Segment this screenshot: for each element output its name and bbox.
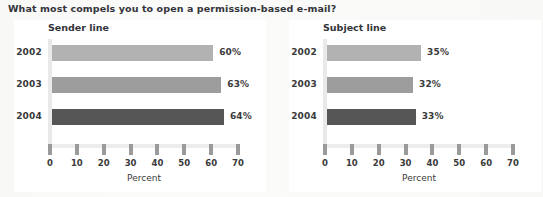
- bar-row: 2004 64%: [14, 109, 266, 125]
- axis-tick-label: 0: [38, 158, 62, 168]
- bar-value-subject-2004: 33%: [422, 111, 444, 121]
- bar-subject-2004: [327, 109, 416, 125]
- axis-tick: [75, 144, 79, 155]
- axis-tick: [129, 144, 133, 155]
- bar-row: 2002 60%: [14, 45, 266, 61]
- axis-tick: [182, 144, 186, 155]
- bar-sender-2004: [52, 109, 224, 125]
- axis-tick: [484, 144, 488, 155]
- panel-title-subject: Subject line: [323, 22, 386, 33]
- bar-subject-2002: [327, 45, 421, 61]
- axis-tick-label: 10: [65, 158, 89, 168]
- bar-row: 2004 33%: [289, 109, 541, 125]
- axis-title-subject: Percent: [323, 173, 515, 183]
- axis-tick-label: 70: [501, 158, 525, 168]
- x-axis-sender: 010203040506070 Percent: [14, 144, 266, 192]
- bar-subject-2003: [327, 77, 413, 93]
- category-label: 2002: [289, 47, 317, 57]
- bar-sender-2002: [52, 45, 213, 61]
- axis-tick-label: 60: [474, 158, 498, 168]
- axis-tick: [236, 144, 240, 155]
- axis-tick: [377, 144, 381, 155]
- axis-tick-label: 20: [92, 158, 116, 168]
- axis-tick: [102, 144, 106, 155]
- bar-sender-2003: [52, 77, 221, 93]
- chart-panel-sender: Sender line 2002 60% 2003 63% 2004 64% 0…: [14, 20, 266, 192]
- category-label: 2003: [289, 79, 317, 89]
- bar-value-sender-2002: 60%: [219, 47, 241, 57]
- axis-tick-label: 30: [119, 158, 143, 168]
- axis-tick-label: 30: [394, 158, 418, 168]
- bar-row: 2003 63%: [14, 77, 266, 93]
- category-label: 2002: [14, 47, 42, 57]
- axis-tick-label: 20: [367, 158, 391, 168]
- category-label: 2004: [289, 111, 317, 121]
- axis-title-sender: Percent: [48, 173, 240, 183]
- plot-area-sender: 2002 60% 2003 63% 2004 64%: [14, 39, 266, 144]
- axis-tick: [155, 144, 159, 155]
- panel-title-sender: Sender line: [48, 22, 109, 33]
- axis-tick: [48, 144, 52, 155]
- axis-tick-label: 70: [226, 158, 250, 168]
- axis-tick: [511, 144, 515, 155]
- figure-title: What most compels you to open a permissi…: [8, 3, 336, 14]
- bar-value-sender-2003: 63%: [227, 79, 249, 89]
- bar-row: 2003 32%: [289, 77, 541, 93]
- axis-tick: [404, 144, 408, 155]
- axis-tick: [430, 144, 434, 155]
- chart-panel-subject: Subject line 2002 35% 2003 32% 2004 33% …: [289, 20, 541, 192]
- figure-canvas: What most compels you to open a permissi…: [0, 0, 543, 197]
- axis-tick-label: 50: [447, 158, 471, 168]
- category-label: 2003: [14, 79, 42, 89]
- axis-tick-label: 50: [172, 158, 196, 168]
- axis-tick: [457, 144, 461, 155]
- x-axis-subject: 010203040506070 Percent: [289, 144, 541, 192]
- axis-tick: [350, 144, 354, 155]
- bar-row: 2002 35%: [289, 45, 541, 61]
- axis-tick: [209, 144, 213, 155]
- axis-tick-label: 40: [420, 158, 444, 168]
- axis-tick-label: 40: [145, 158, 169, 168]
- axis-tick-label: 60: [199, 158, 223, 168]
- axis-tick-label: 0: [313, 158, 337, 168]
- plot-area-subject: 2002 35% 2003 32% 2004 33%: [289, 39, 541, 144]
- bar-value-subject-2002: 35%: [427, 47, 449, 57]
- bar-value-subject-2003: 32%: [419, 79, 441, 89]
- axis-tick: [323, 144, 327, 155]
- axis-tick-label: 10: [340, 158, 364, 168]
- bar-value-sender-2004: 64%: [230, 111, 252, 121]
- category-label: 2004: [14, 111, 42, 121]
